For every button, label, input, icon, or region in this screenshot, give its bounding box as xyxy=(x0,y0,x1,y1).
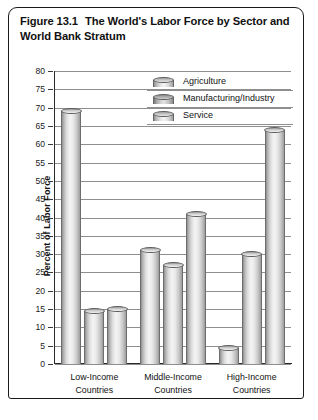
y-axis-tick xyxy=(48,327,53,328)
y-axis-tick xyxy=(48,199,53,200)
y-axis-tick xyxy=(48,108,53,109)
y-axis-tick-label: 0 xyxy=(19,359,45,369)
bar-service-1 xyxy=(107,309,127,364)
bar-agriculture-1 xyxy=(61,111,81,364)
y-axis-tick xyxy=(48,71,53,72)
gridline xyxy=(55,181,291,182)
bar-service-2 xyxy=(186,214,206,364)
y-axis-tick xyxy=(48,364,53,365)
y-axis-tick-label: 35 xyxy=(19,231,45,241)
y-axis-tick xyxy=(48,89,53,90)
gridline xyxy=(55,71,291,72)
y-axis-tick-label: 30 xyxy=(19,249,45,259)
y-axis-tick xyxy=(48,218,53,219)
figure-number: Figure 13.1 xyxy=(20,15,78,27)
y-axis-tick-label: 10 xyxy=(19,322,45,332)
y-axis-tick-label: 65 xyxy=(19,121,45,131)
y-axis-tick xyxy=(48,126,53,127)
gridline xyxy=(55,89,291,90)
y-axis-title: Percent of Labor Force xyxy=(42,176,52,277)
y-axis-tick xyxy=(48,236,53,237)
y-axis-tick-label: 75 xyxy=(19,84,45,94)
y-axis-tick-label: 20 xyxy=(19,286,45,296)
x-axis-label-3: High-IncomeCountries xyxy=(200,371,304,396)
y-axis-tick-label: 15 xyxy=(19,304,45,314)
gridline xyxy=(55,108,291,109)
gridline xyxy=(55,364,291,365)
gridline xyxy=(55,126,291,127)
bar-manufacturing-industry-1 xyxy=(84,311,104,364)
bar-agriculture-2 xyxy=(140,250,160,364)
y-axis-tick-label: 45 xyxy=(19,194,45,204)
y-axis-tick-label: 50 xyxy=(19,176,45,186)
figure-caption: Figure 13.1The World's Labor Force by Se… xyxy=(20,14,296,43)
y-axis-tick xyxy=(48,272,53,273)
chart-plot-area: Percent of Labor Force 80757065605550454… xyxy=(55,71,291,364)
y-axis-tick xyxy=(48,346,53,347)
y-axis-tick xyxy=(48,254,53,255)
y-axis-tick xyxy=(48,163,53,164)
bar-manufacturing-industry-3 xyxy=(242,254,262,364)
x-label-line2: Countries xyxy=(200,384,304,397)
bar-service-3 xyxy=(265,130,285,364)
y-axis-tick-label: 55 xyxy=(19,158,45,168)
gridline xyxy=(55,144,291,145)
y-axis-tick-label: 40 xyxy=(19,213,45,223)
y-axis-tick-label: 5 xyxy=(19,341,45,351)
y-axis-tick-label: 70 xyxy=(19,103,45,113)
y-axis-tick-label: 80 xyxy=(19,66,45,76)
gridline xyxy=(55,218,291,219)
y-axis-tick xyxy=(48,291,53,292)
bar-manufacturing-industry-2 xyxy=(163,265,183,364)
y-axis-tick-label: 60 xyxy=(19,139,45,149)
gridline xyxy=(55,199,291,200)
gridline xyxy=(55,163,291,164)
figure-panel: Figure 13.1The World's Labor Force by Se… xyxy=(8,7,304,399)
y-axis-tick-label: 25 xyxy=(19,267,45,277)
x-label-line1: High-Income xyxy=(200,371,304,384)
gridline xyxy=(55,236,291,237)
y-axis-tick xyxy=(48,144,53,145)
y-axis-tick xyxy=(48,181,53,182)
bar-agriculture-3 xyxy=(219,348,239,364)
y-axis-tick xyxy=(48,309,53,310)
